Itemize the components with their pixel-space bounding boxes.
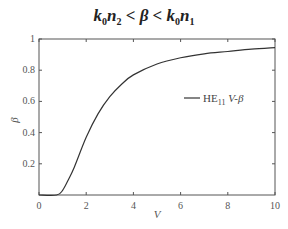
y-tick-label: 0.2 [23, 158, 36, 169]
x-tick-label: 10 [270, 200, 280, 211]
legend: HE11 V-β [184, 92, 244, 107]
plot-area [39, 39, 275, 195]
x-tick-label: 6 [178, 200, 183, 211]
chart-plot: 0246810 0.20.40.60.81 V β HE11 V-β [0, 0, 288, 229]
x-axis-ticks: 0246810 [37, 39, 281, 211]
y-tick-label: 0.6 [23, 95, 36, 106]
y-tick-label: 0.8 [23, 64, 36, 75]
x-tick-label: 2 [84, 200, 89, 211]
he11-curve [39, 48, 275, 196]
y-axis-label: β [8, 117, 20, 124]
x-axis-label: V [154, 208, 162, 220]
x-tick-label: 8 [225, 200, 230, 211]
x-tick-label: 0 [37, 200, 42, 211]
x-tick-label: 4 [131, 200, 136, 211]
y-tick-label: 1 [30, 33, 35, 44]
y-tick-label: 0.4 [23, 127, 36, 138]
legend-label: HE11 V-β [203, 92, 244, 107]
